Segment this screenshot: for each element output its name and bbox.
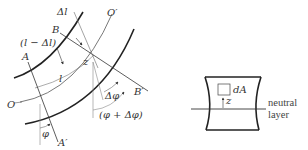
- bending-beam-diagram: Δl B (l − Δl) A O′ z l O Δφ B′ (φ + Δφ) …: [0, 0, 308, 150]
- label-A: A: [21, 51, 29, 62]
- beam-segment-figure: Δl B (l − Δl) A O′ z l O Δφ B′ (φ + Δφ) …: [7, 6, 148, 148]
- label-delta-phi: Δφ: [104, 90, 119, 101]
- label-A-prime: A′: [57, 137, 68, 148]
- cross-section-figure: dA z neutral layer: [191, 77, 297, 130]
- section-line-BB: [60, 33, 148, 91]
- label-neutral: neutral: [268, 97, 297, 108]
- label-B: B: [51, 24, 59, 35]
- dA-element: [218, 84, 230, 95]
- label-z: z: [82, 56, 89, 67]
- label-l-minus-delta-l: (l − Δl): [20, 37, 56, 48]
- label-O-prime: O′: [107, 7, 118, 18]
- label-delta-l: Δl: [56, 6, 67, 17]
- label-phi-plus-delta-phi: (φ + Δφ): [99, 109, 143, 120]
- section-left-side: [205, 77, 210, 130]
- label-z-right: z: [225, 95, 232, 106]
- label-dA: dA: [233, 84, 247, 95]
- label-layer: layer: [268, 109, 289, 120]
- label-O: O: [7, 99, 15, 110]
- section-right-side: [256, 77, 261, 130]
- label-phi: φ: [42, 128, 49, 139]
- l-minus-delta-l-arrow: [57, 48, 63, 64]
- label-B-prime: B′: [133, 86, 144, 97]
- label-l: l: [59, 73, 62, 84]
